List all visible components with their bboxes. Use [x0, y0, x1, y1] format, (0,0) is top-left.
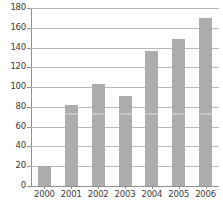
y-tick-label: 100 — [10, 82, 26, 91]
y-tick-mark — [27, 186, 31, 187]
x-tick-label-2003: 2003 — [115, 189, 136, 199]
x-tick-mark — [125, 186, 126, 189]
y-tick-label: 180 — [10, 3, 26, 12]
y-tick-mark — [27, 48, 31, 49]
bar-2002 — [92, 84, 105, 186]
bar-2006 — [199, 18, 212, 186]
gridline-120 — [31, 67, 219, 68]
x-tick-label-2006: 2006 — [195, 189, 216, 199]
y-tick-label: 140 — [10, 43, 26, 52]
gridline-140 — [31, 48, 219, 49]
y-axis-labels: 020406080100120140160180 — [0, 0, 26, 217]
y-tick-mark — [27, 28, 31, 29]
y-tick-mark — [27, 87, 31, 88]
y-tick-label: 80 — [16, 102, 26, 111]
bar-2000 — [38, 166, 51, 186]
gridline-100 — [31, 87, 219, 88]
x-tick-label-2005: 2005 — [168, 189, 189, 199]
x-tick-mark — [179, 186, 180, 189]
x-tick-label-2001: 2001 — [61, 189, 82, 199]
y-tick-label: 20 — [16, 161, 26, 170]
y-tick-label: 160 — [10, 23, 26, 32]
plot-area — [31, 8, 219, 186]
x-tick-label-2004: 2004 — [141, 189, 162, 199]
x-tick-mark — [152, 186, 153, 189]
y-tick-mark — [27, 166, 31, 167]
y-tick-mark — [27, 107, 31, 108]
x-tick-label-2002: 2002 — [88, 189, 109, 199]
gridline-180 — [31, 8, 219, 9]
bar-2005 — [172, 39, 185, 186]
y-tick-label: 60 — [16, 122, 26, 131]
bar-chart: 020406080100120140160180 200020012002200… — [0, 0, 223, 217]
x-tick-mark — [98, 186, 99, 189]
bar-2001 — [65, 105, 78, 186]
y-tick-mark — [27, 146, 31, 147]
y-tick-label: 120 — [10, 62, 26, 71]
y-tick-mark — [27, 67, 31, 68]
bar-2003 — [119, 96, 132, 186]
x-tick-mark — [71, 186, 72, 189]
y-tick-mark — [27, 127, 31, 128]
y-tick-label: 0 — [21, 181, 26, 190]
x-axis-labels: 2000200120022003200420052006 — [31, 189, 219, 205]
gridline-160 — [31, 28, 219, 29]
y-tick-label: 40 — [16, 141, 26, 150]
y-tick-mark — [27, 8, 31, 9]
x-tick-label-2000: 2000 — [34, 189, 55, 199]
x-tick-mark — [44, 186, 45, 189]
bar-2004 — [145, 51, 158, 186]
x-tick-mark — [206, 186, 207, 189]
